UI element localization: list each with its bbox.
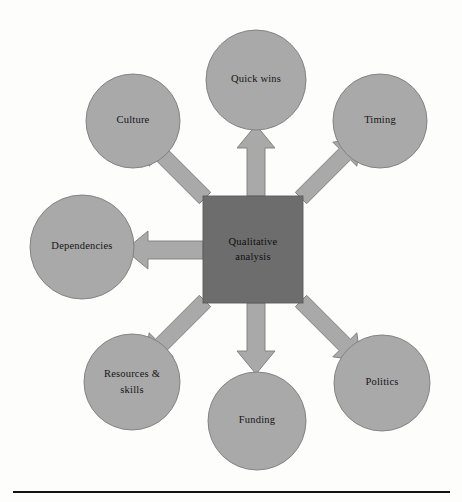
hub-and-spoke-diagram: Qualitative analysis Culture Quick wins …: [0, 0, 462, 502]
node-politics[interactable]: Politics: [334, 335, 430, 431]
node-resources-skills-label-line-1: Resources &: [104, 368, 160, 379]
node-timing-label: Timing: [364, 114, 396, 125]
node-politics-label: Politics: [365, 376, 398, 387]
arrow-quick-wins-to-center: [237, 125, 275, 196]
node-funding[interactable]: Funding: [208, 372, 306, 470]
diagram-page: Qualitative analysis Culture Quick wins …: [0, 0, 462, 502]
node-resources-skills[interactable]: Resources & skills: [84, 334, 180, 430]
center-node-label-line-2: analysis: [235, 251, 270, 262]
node-dependencies[interactable]: Dependencies: [30, 195, 134, 299]
node-resources-skills-label-line-2: skills: [120, 384, 143, 395]
node-culture[interactable]: Culture: [86, 74, 180, 168]
arrow-dependencies-to-center: [125, 231, 203, 269]
center-node-qualitative-analysis[interactable]: Qualitative analysis: [203, 196, 303, 303]
node-timing[interactable]: Timing: [333, 74, 427, 168]
node-culture-label: Culture: [117, 114, 150, 125]
center-node-label-line-1: Qualitative: [229, 236, 278, 247]
node-dependencies-label: Dependencies: [51, 240, 112, 251]
arrow-funding-to-center: [237, 303, 275, 374]
node-resources-skills-circle[interactable]: [84, 334, 180, 430]
node-funding-label: Funding: [239, 414, 276, 425]
node-quick-wins[interactable]: Quick wins: [206, 30, 306, 130]
node-quick-wins-label: Quick wins: [231, 73, 281, 84]
